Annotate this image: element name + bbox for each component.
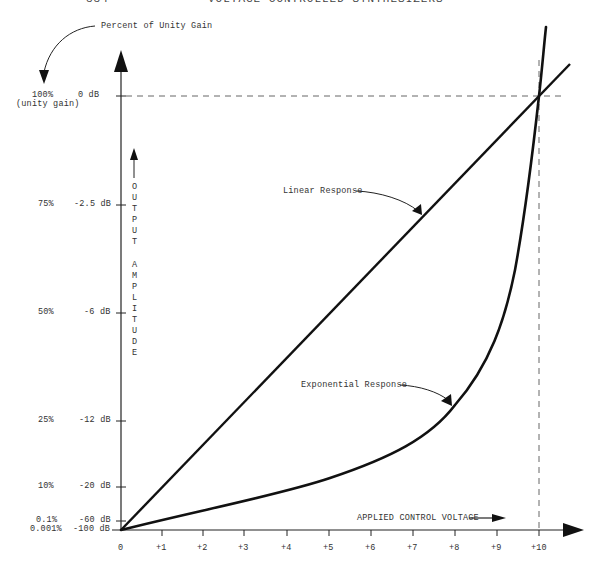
y-tick-percent-0-001: 0.001% — [30, 524, 62, 534]
y-axis-label-amplitude: AMPLITUDE — [129, 260, 139, 363]
y-tick-db-20: -20 dB — [79, 481, 111, 491]
percent-annotation-arrow — [44, 26, 95, 72]
applied-control-voltage-label: APPLIED CONTROL VOLTAGE — [357, 513, 479, 523]
exponential-response-curve — [121, 27, 546, 530]
y-axis-label-output: OUTPUT — [129, 182, 139, 252]
x-axis-arrowhead-icon — [563, 523, 584, 537]
y-tick-db-6: -6 dB — [84, 307, 111, 317]
y-tick-percent-50: 50% — [38, 307, 54, 317]
x-tick-7: +7 — [407, 543, 418, 553]
y-tick-db-12: -12 dB — [79, 415, 111, 425]
x-tick-2: +2 — [197, 543, 208, 553]
linear-annotation-arrow — [356, 191, 418, 211]
linear-response-line — [121, 64, 570, 530]
x-tick-4: +4 — [281, 543, 292, 553]
x-ticks — [162, 530, 539, 536]
y-tick-percent-25: 25% — [38, 415, 54, 425]
y-axis-arrowhead-icon — [114, 50, 128, 72]
y-axis-label-output-text: OUTPUT — [129, 182, 140, 248]
x-tick-1: +1 — [156, 543, 167, 553]
y-tick-db-0: 0 dB — [78, 90, 99, 100]
x-label-arrowhead-icon — [492, 514, 506, 522]
percent-of-unity-gain-label: Percent of Unity Gain — [101, 21, 212, 31]
y-tick-db-2-5: -2.5 dB — [74, 199, 111, 209]
x-tick-6: +6 — [365, 543, 376, 553]
x-tick-10: +10 — [531, 543, 547, 553]
chart-canvas — [0, 0, 601, 564]
x-tick-8: +8 — [449, 543, 460, 553]
y-tick-percent-10: 10% — [38, 481, 54, 491]
x-tick-0: 0 — [118, 543, 123, 553]
exponential-annotation-arrow — [400, 385, 448, 400]
output-up-arrowhead-icon — [130, 148, 138, 160]
y-axis-label-amplitude-text: AMPLITUDE — [129, 260, 140, 359]
y-tick-percent-100-sub: (unity gain) — [16, 99, 80, 109]
y-tick-percent-75: 75% — [38, 199, 54, 209]
exponential-response-label: Exponential Response — [301, 380, 407, 390]
x-tick-5: +5 — [323, 543, 334, 553]
linear-response-label: Linear Response — [283, 186, 363, 196]
percent-arrowhead-icon — [39, 70, 49, 84]
x-tick-3: +3 — [238, 543, 249, 553]
linear-arrowhead-icon — [412, 204, 422, 215]
y-tick-db-100: -100 dB — [73, 524, 110, 534]
x-tick-9: +9 — [491, 543, 502, 553]
